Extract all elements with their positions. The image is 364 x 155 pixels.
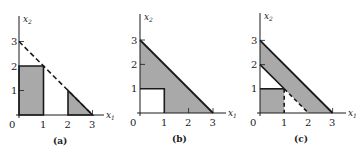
- x-axis-label: x1: [348, 108, 357, 119]
- x-tick-0: 0: [9, 119, 15, 130]
- x-tick-3: 3: [210, 117, 216, 128]
- x-axis-label: x1: [106, 110, 115, 121]
- y-tick-3: 3: [11, 36, 17, 47]
- y-tick-1: 1: [251, 83, 257, 94]
- y-tick-1: 1: [11, 85, 17, 96]
- caption-c: (c): [294, 134, 308, 144]
- x-tick-1: 1: [281, 117, 287, 128]
- x-tick-2: 2: [65, 119, 71, 130]
- unit-square-outline: [140, 89, 164, 113]
- x-tick-1: 1: [40, 119, 46, 130]
- caption-a: (a): [53, 136, 67, 146]
- x-tick-0: 0: [250, 117, 256, 128]
- panel-c: 3 2 1 0 1 2 3 x2 x1 (c): [250, 11, 357, 144]
- x-tick-3: 3: [89, 119, 95, 130]
- y-tick-1: 1: [131, 83, 137, 94]
- y-tick-2: 2: [131, 59, 137, 70]
- y-axis-label: x2: [264, 11, 273, 22]
- x-axis-label: x1: [228, 108, 237, 119]
- y-tick-2: 2: [251, 59, 257, 70]
- panel-b: 3 2 1 0 1 2 3 x2 x1 (b): [130, 12, 237, 144]
- caption-b: (b): [172, 134, 187, 144]
- figure: 3 2 1 0 1 2 3 x2 x1 (a) 3 2 1 0 1 2 3 x2: [0, 0, 364, 155]
- x-tick-0: 0: [130, 117, 136, 128]
- x-tick-2: 2: [305, 117, 311, 128]
- y-tick-3: 3: [131, 35, 137, 46]
- y-tick-3: 3: [251, 35, 257, 46]
- y-tick-2: 2: [11, 61, 17, 72]
- y-axis-label: x2: [144, 12, 153, 23]
- shaded-square: [260, 89, 284, 113]
- y-axis-label: x2: [23, 14, 32, 25]
- panel-a: 3 2 1 0 1 2 3 x2 x1 (a): [9, 14, 115, 146]
- x-tick-2: 2: [185, 117, 191, 128]
- x-tick-1: 1: [161, 117, 167, 128]
- x-tick-3: 3: [329, 117, 335, 128]
